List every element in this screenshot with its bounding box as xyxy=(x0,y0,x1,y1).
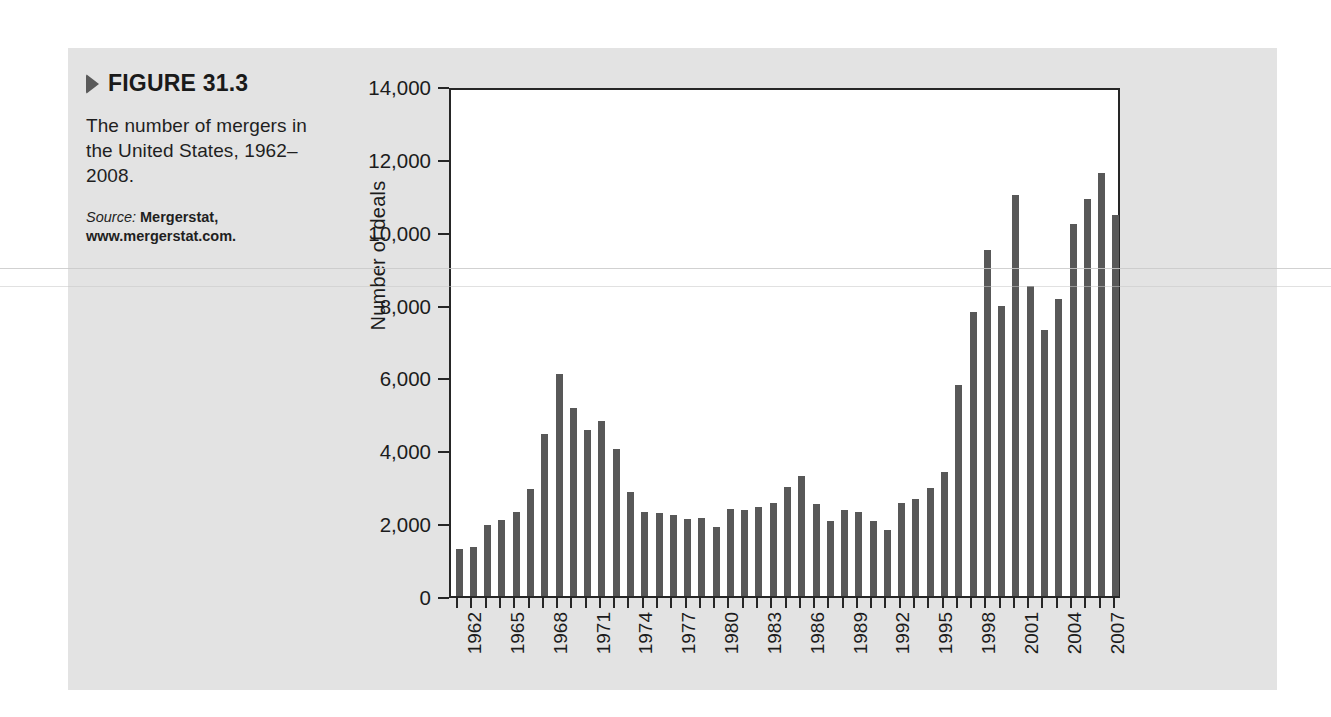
x-tick-mark xyxy=(1113,598,1115,608)
bar xyxy=(1055,299,1062,596)
y-tick-label: 12,000 xyxy=(368,149,438,173)
y-tick-mark xyxy=(438,160,449,162)
y-tick-label: 6,000 xyxy=(380,367,438,391)
bar xyxy=(770,503,777,596)
figure-panel: FIGURE 31.3 The number of mergers in the… xyxy=(68,48,1277,690)
bar xyxy=(470,547,477,596)
bar xyxy=(513,512,520,596)
figure-caption: The number of mergers in the United Stat… xyxy=(86,113,314,188)
y-tick-mark xyxy=(438,451,449,453)
x-tick-mark xyxy=(513,598,515,608)
x-tick-mark xyxy=(685,598,687,608)
bar xyxy=(927,488,934,596)
x-tick-mark xyxy=(1056,598,1058,608)
x-tick-mark xyxy=(1013,598,1015,608)
x-tick-label: 1998 xyxy=(978,612,1000,654)
bar xyxy=(613,449,620,596)
x-tick-mark xyxy=(713,598,715,608)
x-tick-mark xyxy=(485,598,487,608)
x-tick-label: 1995 xyxy=(935,612,957,654)
figure-number: FIGURE 31.3 xyxy=(108,70,248,97)
y-tick-label: 4,000 xyxy=(380,440,438,464)
x-tick-label: 2007 xyxy=(1107,612,1129,654)
y-tick-mark xyxy=(438,306,449,308)
x-tick-mark xyxy=(613,598,615,608)
x-tick-mark xyxy=(827,598,829,608)
x-tick-mark xyxy=(984,598,986,608)
figure-heading: FIGURE 31.3 xyxy=(86,70,314,97)
bar xyxy=(1084,199,1091,596)
x-tick-mark xyxy=(1027,598,1029,608)
bar xyxy=(541,434,548,596)
bar xyxy=(813,504,820,596)
x-tick-label: 1965 xyxy=(507,612,529,654)
bar-chart: Number of deals 14,00012,00010,0008,0006… xyxy=(330,48,1277,690)
x-tick-label: 1974 xyxy=(635,612,657,654)
bar xyxy=(684,519,691,596)
x-tick-mark xyxy=(927,598,929,608)
bar xyxy=(870,521,877,596)
bar xyxy=(898,503,905,596)
bar xyxy=(827,521,834,596)
plot-area xyxy=(449,88,1120,598)
bars-layer xyxy=(451,90,1118,596)
x-tick-mark xyxy=(699,598,701,608)
x-tick-mark xyxy=(627,598,629,608)
y-tick-mark xyxy=(438,524,449,526)
y-tick-mark xyxy=(438,233,449,235)
y-tick-mark xyxy=(438,378,449,380)
y-tick-label: 10,000 xyxy=(368,222,438,246)
bar xyxy=(698,518,705,596)
bar xyxy=(741,510,748,596)
y-tick-mark xyxy=(438,597,449,599)
x-tick-mark xyxy=(1041,598,1043,608)
x-tick-mark xyxy=(1084,598,1086,608)
bar xyxy=(584,430,591,596)
x-axis-ticks: 1962196519681971197419771980198319861989… xyxy=(449,598,1120,690)
bar xyxy=(727,509,734,596)
x-tick-mark xyxy=(556,598,558,608)
x-tick-label: 2004 xyxy=(1064,612,1086,654)
x-tick-mark xyxy=(970,598,972,608)
bar xyxy=(798,476,805,596)
x-tick-mark xyxy=(456,598,458,608)
x-tick-label: 1977 xyxy=(678,612,700,654)
x-tick-label: 1980 xyxy=(721,612,743,654)
x-tick-mark xyxy=(642,598,644,608)
bar xyxy=(1012,195,1019,596)
caption-block: FIGURE 31.3 The number of mergers in the… xyxy=(86,70,314,246)
bar xyxy=(855,512,862,596)
x-tick-mark xyxy=(856,598,858,608)
x-tick-mark xyxy=(913,598,915,608)
bar xyxy=(713,527,720,596)
x-tick-mark xyxy=(870,598,872,608)
bar xyxy=(1112,215,1119,596)
x-tick-label: 1968 xyxy=(550,612,572,654)
bar xyxy=(498,520,505,597)
bar xyxy=(484,525,491,596)
figure-source: Source: Mergerstat, www.mergerstat.com. xyxy=(86,208,314,246)
bar xyxy=(556,374,563,596)
x-tick-mark xyxy=(570,598,572,608)
x-tick-mark xyxy=(499,598,501,608)
y-axis-ticks: 14,00012,00010,0008,0006,0004,0002,0000 xyxy=(330,48,449,598)
x-tick-mark xyxy=(884,598,886,608)
bar xyxy=(656,513,663,596)
x-tick-mark xyxy=(727,598,729,608)
x-tick-label: 2001 xyxy=(1021,612,1043,654)
x-tick-mark xyxy=(528,598,530,608)
bar xyxy=(1041,330,1048,596)
bar xyxy=(1070,224,1077,596)
y-tick-mark xyxy=(438,87,449,89)
x-tick-mark xyxy=(542,598,544,608)
x-tick-mark xyxy=(742,598,744,608)
y-tick-label: 8,000 xyxy=(380,295,438,319)
x-tick-label: 1962 xyxy=(464,612,486,654)
bar xyxy=(784,487,791,596)
x-tick-mark xyxy=(842,598,844,608)
x-tick-mark xyxy=(656,598,658,608)
x-tick-mark xyxy=(799,598,801,608)
triangle-right-icon xyxy=(86,74,99,94)
x-tick-label: 1992 xyxy=(892,612,914,654)
bar xyxy=(527,489,534,596)
